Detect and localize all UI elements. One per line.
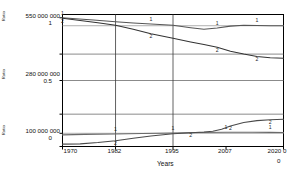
series-inline-label: 2 xyxy=(114,140,117,146)
x-tick-label: 2007 xyxy=(218,147,232,154)
x-tick-label: 1982 xyxy=(108,147,122,154)
series-inline-label: 2 xyxy=(269,119,272,125)
series-inline-label: 2 xyxy=(149,33,152,39)
x-tick-label: 2020 xyxy=(268,147,282,154)
x-tick-label: 1970 xyxy=(64,147,78,154)
series-inline-label: 2 xyxy=(256,56,259,62)
series-inline-label: 1 xyxy=(269,124,272,130)
right-axis-tick-lower: 0 xyxy=(277,157,280,164)
series-inline-label: 1 xyxy=(149,16,152,22)
series-inline-label: 1 xyxy=(216,20,219,26)
series-inline-label: 2 xyxy=(61,18,64,24)
series-inline-label: 2 xyxy=(216,47,219,53)
series-inline-label: 2 xyxy=(229,125,232,131)
series-inline-label: 1 xyxy=(114,126,117,132)
chart-container: Ratio Ratio Ratio 550 000 000 1 280 000 … xyxy=(0,0,298,173)
x-tick-label: 1995 xyxy=(165,147,179,154)
series-inline-label: 2 xyxy=(189,132,192,138)
series-inline-label: 1 xyxy=(225,124,228,130)
right-axis-tick-upper: 0 xyxy=(283,147,286,154)
series-inline-label: 1 xyxy=(61,10,64,16)
chart-canvas: 1111222211112222 xyxy=(0,0,298,173)
x-axis-title: Years xyxy=(157,160,174,167)
series-inline-label: 1 xyxy=(172,125,175,131)
series-markers: 1111222211112222 xyxy=(61,10,272,146)
series-inline-label: 1 xyxy=(256,17,259,23)
